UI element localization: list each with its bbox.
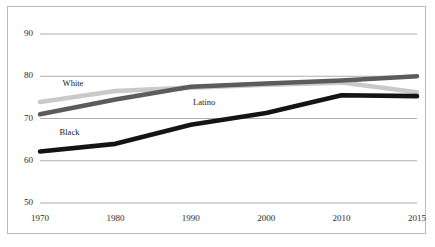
- x-axis-tick-labels: 197019801990200020102015: [31, 213, 427, 223]
- y-tick-label: 60: [24, 155, 34, 165]
- series-label-white: White: [63, 78, 84, 88]
- y-tick-label: 80: [24, 70, 34, 80]
- series-label-black: Black: [60, 127, 81, 137]
- y-tick-label: 90: [24, 28, 34, 38]
- line-chart: 9080706050 197019801990200020102015 Whit…: [0, 0, 435, 247]
- y-tick-label: 70: [24, 113, 34, 123]
- series-label-latino: Latino: [193, 97, 215, 107]
- series-lines: [40, 76, 417, 151]
- x-tick-label: 2000: [257, 213, 276, 223]
- y-tick-label: 50: [24, 197, 34, 207]
- x-tick-label: 1970: [31, 213, 50, 223]
- x-tick-label: 2015: [408, 213, 427, 223]
- x-tick-label: 1980: [106, 213, 125, 223]
- x-tick-label: 2010: [333, 213, 352, 223]
- y-axis-tick-labels: 9080706050: [24, 28, 34, 207]
- x-tick-label: 1990: [182, 213, 201, 223]
